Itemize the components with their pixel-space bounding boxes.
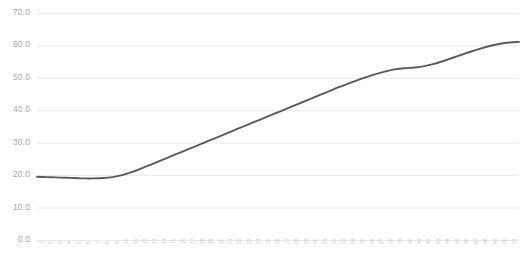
y-tick-label-70.0: 70.0 bbox=[0, 8, 30, 17]
data-series-lines bbox=[37, 42, 519, 179]
chart-plot-area bbox=[0, 0, 520, 254]
y-tick-label-60.0: 60.0 bbox=[0, 40, 30, 49]
y-tick-label-10.0: 10.0 bbox=[0, 203, 30, 212]
y-tick-label-40.0: 40.0 bbox=[0, 105, 30, 114]
gridlines bbox=[37, 14, 519, 241]
y-tick-label-50.0: 50.0 bbox=[0, 73, 30, 82]
y-tick-label-30.0: 30.0 bbox=[0, 138, 30, 147]
y-tick-label-0.0: 0.0 bbox=[0, 235, 30, 244]
series-line-1 bbox=[37, 42, 519, 179]
line-chart: 0.010.020.030.040.050.060.070.0 12345678… bbox=[0, 0, 520, 254]
y-tick-label-20.0: 20.0 bbox=[0, 170, 30, 179]
